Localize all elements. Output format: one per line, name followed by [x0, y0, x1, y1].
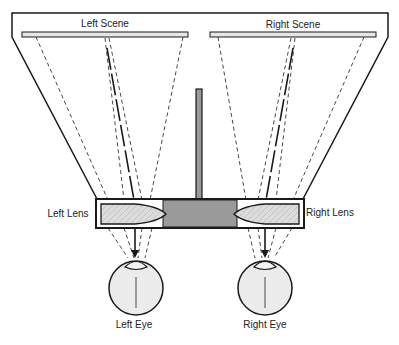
left-eye-label: Left Eye: [116, 319, 153, 331]
left-scene-label: Left Scene: [81, 18, 129, 30]
left-lens-label: Left Lens: [47, 208, 88, 220]
center-divider: [196, 89, 202, 201]
right-lens-label: Right Lens: [306, 207, 354, 219]
right-eye-label: Right Eye: [243, 319, 286, 331]
right-scene-label: Right Scene: [266, 19, 320, 31]
left-scene-plane: [22, 32, 188, 37]
right-scene-plane: [210, 32, 376, 37]
left-eye-shape: [109, 261, 163, 315]
stereoscope-diagram: [0, 0, 399, 345]
center-block: [163, 200, 237, 227]
right-eye-shape: [238, 261, 292, 315]
